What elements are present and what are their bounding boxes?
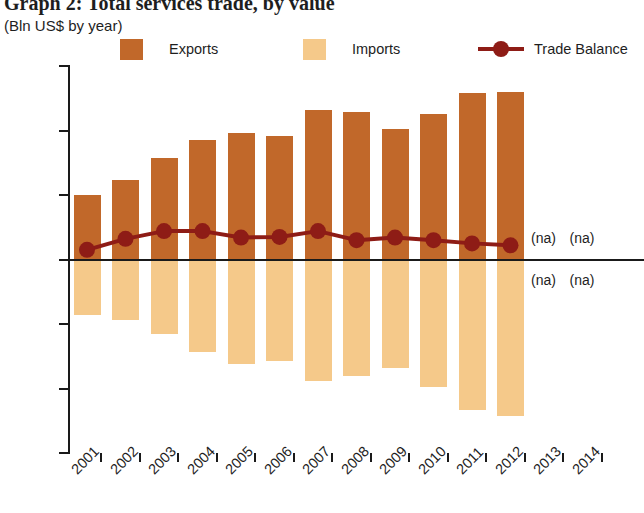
legend-item-exports: Exports [120, 38, 218, 60]
trade-balance-point-2008[interactable] [349, 232, 365, 248]
na-label-import-2013: (na) [531, 272, 556, 288]
trade-balance-point-2006[interactable] [272, 229, 288, 245]
title-block: Graph 2: Total services trade, by value … [4, 0, 640, 35]
na-label-import-2014: (na) [570, 272, 595, 288]
legend-swatch-exports [120, 39, 143, 60]
trade-balance-point-2009[interactable] [387, 230, 403, 246]
legend-swatch-imports [303, 39, 326, 60]
legend-line-marker-icon [478, 41, 524, 57]
legend-item-trade-balance: Trade Balance [478, 38, 628, 60]
trade-balance-point-2005[interactable] [233, 230, 249, 246]
trade-balance-point-2012[interactable] [503, 237, 519, 253]
trade-balance-line [68, 66, 644, 453]
trade-balance-point-2007[interactable] [310, 223, 326, 239]
chart-subtitle: (Bln US$ by year) [4, 16, 640, 35]
legend-label-exports: Exports [169, 41, 218, 57]
trade-balance-point-2011[interactable] [464, 235, 480, 251]
na-label-export-2013: (na) [531, 230, 556, 246]
page-title: Graph 2: Total services trade, by value [4, 0, 640, 14]
trade-balance-point-2001[interactable] [79, 242, 95, 258]
legend-item-imports: Imports [303, 38, 400, 60]
trade-balance-point-2010[interactable] [426, 232, 442, 248]
trade-balance-point-2004[interactable] [195, 223, 211, 239]
trade-balance-point-2002[interactable] [118, 231, 134, 247]
legend-label-trade-balance: Trade Balance [534, 41, 628, 57]
chart-plot-area: (na)(na)(na)(na) [68, 66, 644, 453]
x-axis: 2001200220032004200520062007200820092010… [68, 453, 644, 513]
trade-balance-point-2003[interactable] [156, 223, 172, 239]
na-label-export-2014: (na) [570, 230, 595, 246]
chart-legend: Exports Imports Trade Balance [120, 38, 640, 60]
trade-balance-polyline [87, 231, 511, 250]
legend-label-imports: Imports [352, 41, 400, 57]
